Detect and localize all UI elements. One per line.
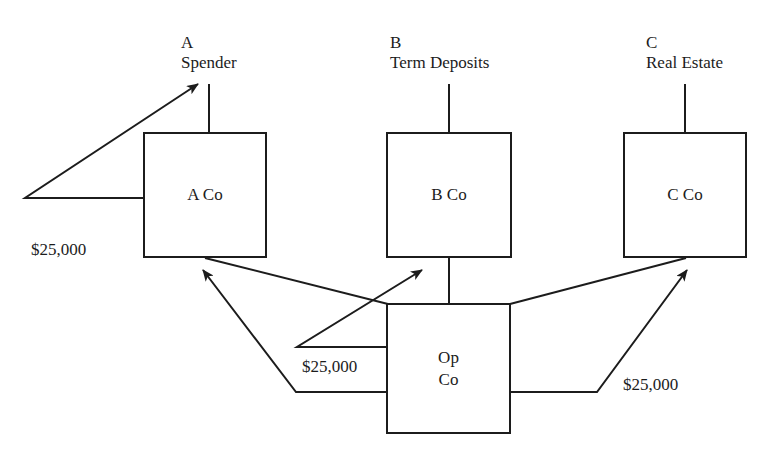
amount-right: $25,000	[623, 375, 678, 395]
op-co-to-c-co-arrow	[510, 270, 687, 392]
entity-c-role: Real Estate	[646, 53, 723, 73]
entity-b-letter: B	[390, 33, 401, 53]
c-co-label: C Co	[667, 184, 702, 206]
c-co-box: C Co	[623, 132, 747, 258]
amount-left: $25,000	[31, 240, 86, 260]
op-co-label-line2: Co	[439, 369, 459, 391]
entity-a-role: Spender	[181, 53, 237, 73]
a-co-op-co-line	[205, 258, 388, 304]
b-co-box: B Co	[386, 132, 512, 258]
c-co-op-co-line	[510, 258, 686, 304]
a-co-label: A Co	[187, 184, 222, 206]
ownership-diagram: A Spender B Term Deposits C Real Estate …	[0, 0, 768, 453]
entity-a-letter: A	[181, 33, 193, 53]
op-co-to-a-co-arrow	[203, 270, 386, 392]
op-co-label-line1: Op	[438, 347, 459, 369]
amount-center: $25,000	[302, 357, 357, 377]
a-co-box: A Co	[143, 132, 267, 258]
entity-b-role: Term Deposits	[390, 53, 489, 73]
b-co-label: B Co	[431, 184, 466, 206]
op-co-box: Op Co	[386, 303, 511, 434]
entity-c-letter: C	[646, 33, 657, 53]
